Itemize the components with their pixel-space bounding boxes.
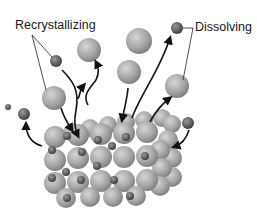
small-ion-dissolving	[171, 22, 183, 34]
label-dissolving: Dissolving	[195, 20, 252, 34]
crystal-lattice	[44, 109, 182, 208]
large-ion-dissolving	[165, 74, 189, 98]
label-recrystallizing: Recrystallizing	[15, 18, 96, 32]
